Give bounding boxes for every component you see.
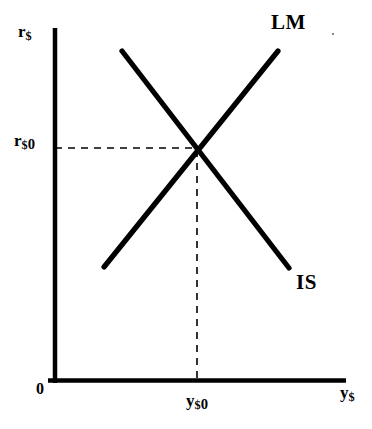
diagram-canvas — [0, 0, 372, 429]
y-axis-title-sub: $ — [26, 29, 32, 43]
scan-speck-artifact — [332, 33, 334, 35]
x-axis-title: y$ — [340, 384, 355, 404]
y-equilibrium-index: 0 — [201, 396, 208, 412]
r-equilibrium-index: 0 — [28, 136, 35, 152]
y-axis-equilibrium-tick-label: r$0 — [14, 132, 35, 152]
is-curve-label: IS — [296, 272, 317, 293]
is-lm-diagram: r$ r$0 0 y$0 y$ LM IS — [0, 0, 372, 429]
is-curve — [122, 51, 289, 268]
origin-label: 0 — [36, 381, 44, 397]
x-axis-title-sub: $ — [349, 390, 355, 404]
x-axis-title-base: y — [340, 383, 349, 402]
y-axis-title: r$ — [18, 23, 32, 43]
lm-curve-label: LM — [271, 12, 306, 33]
y-equilibrium-base: y — [186, 391, 195, 410]
y-axis-title-base: r — [18, 22, 26, 41]
x-axis-equilibrium-tick-label: y$0 — [186, 392, 208, 412]
r-equilibrium-base: r — [14, 131, 22, 150]
lm-curve — [104, 51, 278, 267]
